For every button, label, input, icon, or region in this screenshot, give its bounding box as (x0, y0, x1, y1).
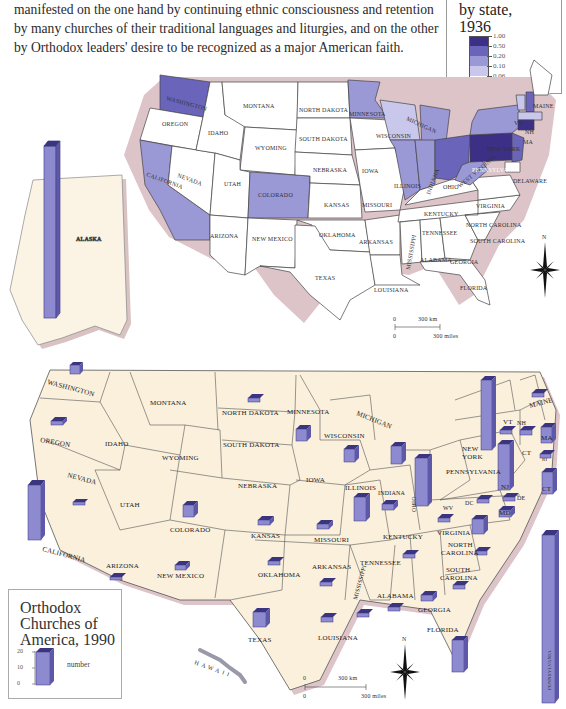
state-ma-1936 (518, 112, 542, 120)
label: MA (541, 434, 553, 442)
bar-virginia (472, 515, 488, 534)
compass-n: N (542, 234, 547, 240)
bar-michigan (391, 442, 406, 464)
label: NH (517, 420, 527, 426)
label: ILLINOIS (345, 484, 376, 492)
label: SOUTH DAKOTA (299, 136, 348, 142)
scale-miles: 300 miles (433, 333, 459, 339)
label: NORTH (448, 541, 473, 549)
label: ARIZONA (210, 233, 239, 239)
compass-rose-icon: N (390, 636, 420, 700)
legend-axis-tick: 20 (17, 648, 23, 654)
state-arizona-1936 (210, 215, 248, 275)
scale-zero: 0 (303, 675, 306, 681)
label: FLORIDA (460, 285, 488, 291)
label: NORTH DAKOTA (222, 409, 279, 417)
label: ALABAMA (420, 257, 452, 263)
bar-colorado (183, 501, 198, 517)
label: PENNSYLVANIA (472, 167, 520, 173)
bar-washington (70, 362, 83, 374)
label: IDAHO (105, 440, 129, 448)
label: NEW (462, 445, 479, 453)
scale-km: 300 km (418, 316, 438, 322)
state-vt-1936 (516, 95, 525, 110)
label: KENTUCKY (383, 533, 423, 541)
scale-km: 300 km (338, 675, 358, 681)
label: UTAH (120, 501, 140, 509)
label: MINNESOTA (349, 111, 386, 117)
label: MAINE (533, 103, 554, 109)
label: SOUTH DAKOTA (223, 441, 279, 449)
scale-bar-1936: 0 300 km 0 300 miles (393, 316, 459, 339)
label: WYOMING (162, 454, 199, 462)
label: IOWA (362, 168, 379, 174)
state-kansas-1936 (308, 183, 362, 218)
bar-alaska-1936 (44, 141, 60, 318)
label: MISSOURI (362, 202, 392, 208)
bar-illinois (354, 493, 370, 521)
state-wyoming-1936 (240, 127, 297, 175)
label: OHIO (411, 496, 417, 512)
label: DC (465, 500, 474, 506)
label: NH (525, 129, 535, 135)
legend-bar-label: number (67, 660, 90, 669)
label: WISCONSIN (376, 133, 412, 139)
legend-axis-tick: 0 (17, 680, 20, 686)
state-alaska-1936 (10, 175, 127, 345)
label: DELAWARE (513, 178, 547, 184)
label: VIRGINIA (437, 529, 470, 537)
compass-n: N (402, 636, 407, 642)
label: MINNESOTA (287, 408, 329, 416)
label: VIRGINIA (476, 203, 505, 209)
label: NEW MEXICO (157, 572, 204, 580)
label: MISSOURI (314, 536, 350, 544)
label: OKLAHOMA (319, 232, 356, 238)
label: GEORGIA (418, 606, 451, 614)
label: MONTANA (243, 103, 275, 109)
bar-texas (253, 608, 270, 627)
label: WISCONSIN (324, 432, 365, 440)
scale-zero: 0 (393, 333, 396, 339)
bar-wisconsin (344, 445, 359, 462)
label: SOUTH (446, 566, 470, 574)
label-pennsylvania-bar: PENNSYLVANIA (547, 650, 552, 690)
label: PENNSYLVANIA (446, 468, 501, 476)
state-nh-1936 (526, 92, 534, 112)
label: KANSAS (251, 532, 280, 540)
label: ILLINOIS (394, 183, 421, 189)
label: UTAH (224, 181, 241, 187)
label: KANSAS (324, 202, 349, 208)
bar-minnesota (296, 425, 311, 441)
scale-miles: 300 miles (361, 693, 387, 699)
label: VT (514, 120, 523, 126)
label: WV (443, 505, 454, 511)
label: MA (523, 139, 534, 145)
label: DE (517, 495, 526, 501)
label: OREGON (162, 121, 189, 127)
label: NORTH DAKOTA (299, 107, 349, 113)
label: RI (542, 457, 548, 462)
label: WYOMING (255, 145, 287, 151)
label: CT (542, 485, 552, 493)
label: HAWAII (194, 659, 233, 678)
label: IDAHO (208, 130, 229, 136)
scale-zero: 0 (303, 693, 306, 699)
map-1936: ALASKA (10, 60, 556, 349)
label: LOUISIANA (374, 287, 409, 293)
label: COLORADO (258, 192, 293, 198)
scale-zero: 0 (393, 316, 396, 322)
bar-florida (452, 636, 468, 672)
label: TENNESSEE (422, 230, 458, 236)
label: CAROLINA (440, 574, 478, 582)
label: LOUISIANA (318, 634, 358, 642)
label: CT (522, 449, 532, 457)
legend-1990: Orthodox Churches of America, 1990 20 10… (8, 589, 122, 699)
label: IOWA (306, 476, 325, 484)
label: MD (499, 509, 511, 517)
label: YORK (462, 453, 483, 461)
bar-ohio (415, 454, 432, 506)
label: TEXAS (248, 636, 272, 644)
label: VT (503, 418, 513, 426)
state-maine-1936 (530, 60, 552, 95)
label: NEW YORK (487, 146, 521, 152)
